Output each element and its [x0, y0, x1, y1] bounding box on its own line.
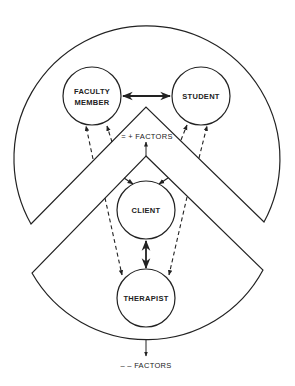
- dashed-arrow-to-student-1: [181, 125, 187, 140]
- arrow-to-client-left: [124, 178, 133, 184]
- therapist-node: THERAPIST: [117, 269, 175, 327]
- student-node: STUDENT: [172, 67, 230, 125]
- therapist-label: THERAPIST: [123, 294, 168, 303]
- supervision-diagram: FACULTY MEMBER STUDENT CLIENT THERAPIST …: [0, 0, 295, 386]
- arrow-to-client-right: [159, 178, 168, 184]
- client-label: CLIENT: [132, 206, 161, 215]
- faculty-label-line1: FACULTY: [74, 87, 110, 96]
- negative-factors-label: – – FACTORS: [120, 361, 171, 370]
- dashed-arrow-to-faculty-2: [107, 126, 112, 142]
- client-node: CLIENT: [117, 181, 175, 239]
- dashed-arrow-to-faculty-1: [86, 126, 93, 159]
- dashed-arrow-to-student-2: [199, 126, 207, 158]
- faculty-member-node: FACULTY MEMBER: [63, 67, 121, 125]
- positive-factors-label: = + FACTORS: [121, 132, 173, 141]
- faculty-label-line2: MEMBER: [74, 98, 109, 107]
- student-label: STUDENT: [182, 92, 220, 101]
